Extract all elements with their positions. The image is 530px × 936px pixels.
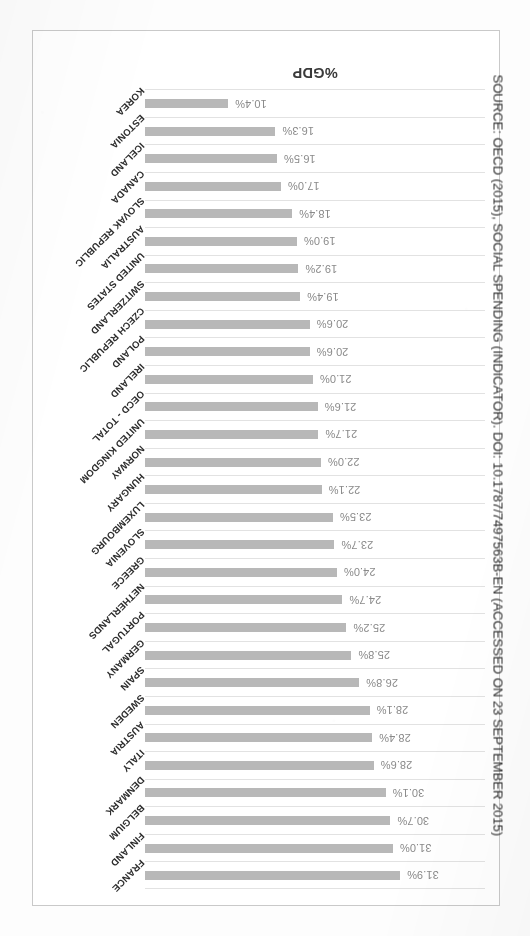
chart-bar xyxy=(145,706,370,715)
chart-bar-row: 10.4% xyxy=(145,89,485,117)
bar-value-label: 21.6% xyxy=(325,401,357,413)
chart-bar xyxy=(145,375,313,384)
chart-bar xyxy=(145,99,228,108)
chart-bar-row: 28.4% xyxy=(145,724,485,752)
chart-bar xyxy=(145,513,333,522)
axis-title: %GDP xyxy=(145,65,485,81)
chart-bar xyxy=(145,568,337,577)
chart-bar xyxy=(145,540,334,549)
chart-bar xyxy=(145,761,374,770)
bar-value-label: 16.5% xyxy=(284,153,316,165)
chart-bar-row: 16.3% xyxy=(145,117,485,145)
bar-value-label: 10.4% xyxy=(235,98,267,110)
scanned-page-background: 31.9%31.0%30.7%30.1%28.6%28.4%28.1%26.8%… xyxy=(0,0,530,936)
chart-bar-row: 19.2% xyxy=(145,255,485,283)
bar-value-label: 23.7% xyxy=(341,539,373,551)
chart-bar-row: 21.0% xyxy=(145,365,485,393)
category-label: KOREA xyxy=(114,85,147,118)
bar-value-label: 16.3% xyxy=(282,125,314,137)
chart-bar-row: 20.6% xyxy=(145,310,485,338)
chart-bar-row: 19.4% xyxy=(145,282,485,310)
chart-bar-row: 18.4% xyxy=(145,200,485,228)
chart-bar xyxy=(145,844,393,853)
chart-bar-row: 20.6% xyxy=(145,337,485,365)
chart-bar xyxy=(145,265,298,274)
chart-bar xyxy=(145,292,300,301)
chart-bar-row: 19.0% xyxy=(145,227,485,255)
chart-bar-row: 21.6% xyxy=(145,393,485,421)
chart-bar-row: 21.7% xyxy=(145,420,485,448)
bar-value-label: 17.0% xyxy=(288,180,320,192)
bar-value-label: 18.4% xyxy=(299,208,331,220)
chart-bar xyxy=(145,733,372,742)
chart-bar xyxy=(145,320,310,329)
category-label: ITALY xyxy=(120,747,147,774)
chart-bar xyxy=(145,458,321,467)
chart-bar xyxy=(145,788,386,797)
chart-bar-row: 17.0% xyxy=(145,172,485,200)
chart-bar-row: 30.1% xyxy=(145,779,485,807)
chart-bar xyxy=(145,651,351,660)
chart-bar xyxy=(145,871,400,880)
bar-value-label: 19.2% xyxy=(305,263,337,275)
chart-bar xyxy=(145,154,277,163)
chart-bar-row: 24.0% xyxy=(145,558,485,586)
chart-bar xyxy=(145,237,297,246)
bar-value-label: 19.4% xyxy=(307,291,339,303)
category-axis-labels: FRANCEFINLANDBELGIUMDENMARKITALYAUSTRIAS… xyxy=(37,79,143,889)
bar-value-label: 28.4% xyxy=(379,732,411,744)
chart-bar-row: 22.0% xyxy=(145,448,485,476)
chart-bar xyxy=(145,430,318,439)
plot-area: 31.9%31.0%30.7%30.1%28.6%28.4%28.1%26.8%… xyxy=(145,89,485,889)
chart-bar xyxy=(145,678,359,687)
bar-value-label: 22.1% xyxy=(329,484,361,496)
bar-value-label: 19.0% xyxy=(304,235,336,247)
bar-value-label: 25.8% xyxy=(358,649,390,661)
chart-bar-row: 30.7% xyxy=(145,806,485,834)
bar-value-label: 21.0% xyxy=(320,373,352,385)
rotated-figure-container: 31.9%31.0%30.7%30.1%28.6%28.4%28.1%26.8%… xyxy=(0,0,530,936)
chart-bar-row: 25.2% xyxy=(145,613,485,641)
chart-bar-row: 31.9% xyxy=(145,861,485,889)
bar-value-label: 30.7% xyxy=(397,815,429,827)
bar-value-label: 23.5% xyxy=(340,511,372,523)
bar-value-label: 20.6% xyxy=(317,318,349,330)
chart-bar-row: 28.1% xyxy=(145,696,485,724)
chart-bar-row: 23.5% xyxy=(145,503,485,531)
bar-value-label: 28.6% xyxy=(381,759,413,771)
chart-bar xyxy=(145,347,310,356)
chart-bar-row: 24.7% xyxy=(145,586,485,614)
chart-bar xyxy=(145,595,342,604)
chart-bar-row: 25.8% xyxy=(145,641,485,669)
chart-frame: 31.9%31.0%30.7%30.1%28.6%28.4%28.1%26.8%… xyxy=(32,30,500,906)
chart-bar-row: 23.7% xyxy=(145,530,485,558)
chart-bar-row: 28.6% xyxy=(145,751,485,779)
source-citation: SOURCE: OECD (2015), SOCIAL SPENDING (IN… xyxy=(491,75,506,935)
chart-bar-row: 22.1% xyxy=(145,475,485,503)
chart-bar xyxy=(145,402,318,411)
bar-value-label: 28.1% xyxy=(377,704,409,716)
chart-bar xyxy=(145,127,275,136)
chart-bar xyxy=(145,485,322,494)
chart-bar xyxy=(145,209,292,218)
chart-bar xyxy=(145,623,346,632)
bar-value-label: 31.9% xyxy=(407,869,439,881)
bar-value-label: 22.0% xyxy=(328,456,360,468)
bar-value-label: 24.7% xyxy=(349,594,381,606)
chart-bar-row: 16.5% xyxy=(145,144,485,172)
bar-value-label: 21.7% xyxy=(325,428,357,440)
chart-bar-row: 26.8% xyxy=(145,668,485,696)
bar-value-label: 30.1% xyxy=(393,787,425,799)
chart-bar xyxy=(145,182,281,191)
bar-value-label: 31.0% xyxy=(400,842,432,854)
bar-value-label: 25.2% xyxy=(353,622,385,634)
chart-bar-row: 31.0% xyxy=(145,834,485,862)
chart-bar xyxy=(145,816,390,825)
bar-value-label: 26.8% xyxy=(366,677,398,689)
bar-value-label: 20.6% xyxy=(317,346,349,358)
bar-value-label: 24.0% xyxy=(344,566,376,578)
